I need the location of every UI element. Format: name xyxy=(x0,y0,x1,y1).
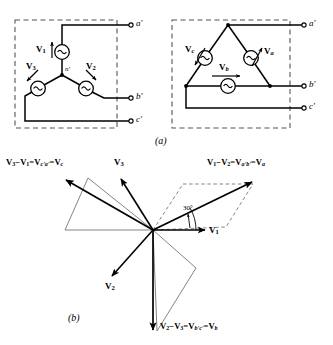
phasor-vector-v3 xyxy=(121,179,153,230)
delta-label-vb: Vb xyxy=(219,63,229,72)
phasor-label-v3: V3 xyxy=(114,158,124,167)
delta-wire-left-lower xyxy=(186,64,201,86)
wye-wire-phase2-b xyxy=(92,92,129,98)
delta-terminal-c-label: c' xyxy=(309,102,315,111)
phasor-label-v2: V2 xyxy=(105,282,115,291)
phasor-equation-vb: V2−V3=Vb'c'=Vb xyxy=(160,322,218,331)
figure-root: V1 V2 V3 n' a' b' c' Vc Va Vb a' b' c' (… xyxy=(0,0,333,345)
delta-node-bottom-right xyxy=(268,84,272,88)
delta-source-c xyxy=(198,51,213,66)
delta-node-bottom-left xyxy=(184,84,188,88)
wye-v2-arrow xyxy=(86,70,96,80)
wye-source-3 xyxy=(31,81,46,96)
phasor-vector-vc xyxy=(66,180,153,230)
delta-dashed-enclosure xyxy=(172,20,290,128)
delta-wire-right-lower xyxy=(255,64,270,86)
delta-terminal-a xyxy=(302,23,306,27)
phasor-vector-va xyxy=(153,182,252,230)
delta-label-vb-sub: b xyxy=(226,65,229,72)
phasor-label-v3-sub: 3 xyxy=(121,160,124,167)
phasor-diagram-group xyxy=(65,178,253,331)
caption-b: (b) xyxy=(68,313,80,323)
delta-node-apex xyxy=(226,23,230,27)
wye-circuit-group xyxy=(15,20,133,128)
phasor-angle-label: 30° xyxy=(183,205,193,212)
wye-neutral-label: n' xyxy=(65,66,70,73)
phasor-label-v2-sub: 2 xyxy=(112,284,115,291)
wye-label-v3-sub: 3 xyxy=(33,64,36,71)
delta-source-b xyxy=(221,79,236,94)
delta-label-vc-sub: c xyxy=(192,47,195,54)
wye-label-v2-sub: 2 xyxy=(93,64,96,71)
wye-wire-phase3-c xyxy=(25,92,129,121)
phasor-angle-tick xyxy=(188,214,190,228)
delta-wire-right-upper xyxy=(228,25,247,52)
wye-terminal-a xyxy=(129,23,133,27)
delta-label-va: Va xyxy=(264,47,274,56)
phasor-label-v1: V1 xyxy=(209,226,219,235)
phasor-equation-vc: V3−V1=Vc'a'=Vc xyxy=(6,158,63,167)
delta-circuit-group xyxy=(172,20,306,128)
wye-terminal-c xyxy=(129,119,133,123)
wye-v3-arrow xyxy=(27,70,38,81)
wye-terminal-c-label: c' xyxy=(136,115,142,124)
wye-terminal-b xyxy=(129,96,133,100)
phasor-label-v1-sub: 1 xyxy=(216,228,219,235)
delta-terminal-a-label: a' xyxy=(309,19,315,28)
delta-terminal-c xyxy=(302,106,306,110)
figure-svg xyxy=(0,0,333,345)
wye-label-v1: V1 xyxy=(36,45,46,54)
caption-a: (a) xyxy=(155,136,167,146)
wye-wire-neutral-phase2 xyxy=(62,75,80,85)
phasor-construction-vb xyxy=(153,230,196,331)
wye-wire-phase1 xyxy=(62,25,129,45)
delta-terminal-b xyxy=(302,84,306,88)
delta-wire-left-upper xyxy=(209,25,228,52)
wye-label-v2: V2 xyxy=(86,62,96,71)
wye-dashed-enclosure xyxy=(15,20,117,128)
wye-label-v1-sub: 1 xyxy=(43,47,46,54)
phasor-vector-v2 xyxy=(112,230,153,276)
wye-terminal-b-label: b' xyxy=(136,92,142,101)
delta-label-vc: Vc xyxy=(185,45,194,54)
delta-label-va-sub: a xyxy=(271,49,274,56)
delta-lead-c xyxy=(186,86,302,108)
phasor-equation-va: V1−V2=Va'b'=Va xyxy=(207,158,265,167)
wye-source-2 xyxy=(79,81,94,96)
wye-terminal-a-label: a' xyxy=(136,19,142,28)
wye-source-1 xyxy=(55,45,70,60)
wye-wire-neutral-phase3 xyxy=(44,75,62,85)
delta-terminal-b-label: b' xyxy=(309,80,315,89)
wye-label-v3: V3 xyxy=(26,62,36,71)
